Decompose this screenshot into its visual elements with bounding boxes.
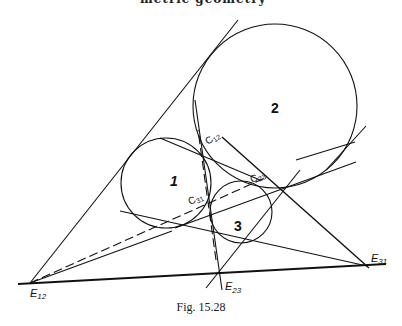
circle-2-label: 2 xyxy=(271,100,279,116)
dashed-line-e12-c23 xyxy=(30,178,265,283)
geometry-figure: 1 2 3 C12 C23 C31 E12 E23 E31 xyxy=(0,0,402,300)
label-e12: E12 xyxy=(30,287,47,300)
label-c31: C31 xyxy=(186,190,205,207)
tangent-e31-lower xyxy=(120,211,367,266)
tangent-circle2-right xyxy=(326,126,366,170)
label-c12: C12 xyxy=(203,129,222,148)
tangent-e12-lower xyxy=(30,231,172,283)
label-e31: E31 xyxy=(371,252,387,266)
tangent-c23-right xyxy=(175,162,356,228)
circle-1-label: 1 xyxy=(170,173,178,189)
circle-3-label: 3 xyxy=(234,218,242,234)
figure-caption: Fig. 15.28 xyxy=(0,300,402,315)
label-e23: E23 xyxy=(225,280,242,295)
tangent-e23-left xyxy=(195,100,222,290)
label-c23: C23 xyxy=(248,168,267,185)
tangent-circle2-bottom xyxy=(296,142,355,160)
